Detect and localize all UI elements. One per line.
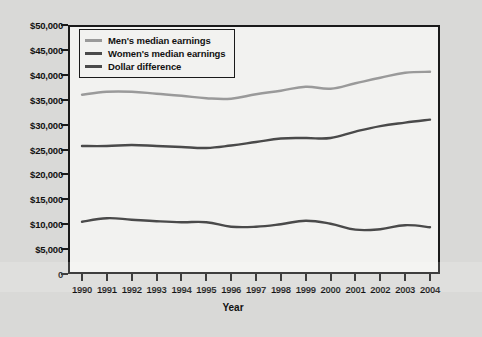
legend-item-label: Dollar difference <box>108 61 181 72</box>
x-axis-tick-mark <box>354 274 356 281</box>
y-axis-tick-mark <box>61 273 68 275</box>
x-axis-tick-label: 2004 <box>420 284 440 295</box>
x-axis-title-text: Year <box>222 302 243 313</box>
x-axis-tick-mark <box>255 274 257 281</box>
y-axis-tick-mark <box>61 173 68 175</box>
legend-item: Dollar difference <box>85 60 226 73</box>
y-axis-tick-mark <box>61 248 68 250</box>
x-axis-tick-label: 1996 <box>221 284 241 295</box>
legend-swatch-icon <box>85 65 102 68</box>
legend-swatch-icon <box>85 39 102 42</box>
y-axis-tick-label: $30,000 <box>30 119 63 130</box>
x-axis-tick-label: 1998 <box>271 284 291 295</box>
x-axis-tick-mark <box>379 274 381 281</box>
x-axis-tick-label: 1991 <box>97 284 117 295</box>
y-axis-tick-label: $5,000 <box>35 244 63 255</box>
x-axis-tick-mark <box>180 274 182 281</box>
y-axis-tick-label: $50,000 <box>30 20 63 31</box>
y-axis-tick-label: $25,000 <box>30 144 63 155</box>
y-axis-tick-label: $45,000 <box>30 44 63 55</box>
x-axis-tick-label: 1994 <box>171 284 191 295</box>
y-axis-tick-mark <box>61 74 68 76</box>
y-axis-tick-label: $20,000 <box>30 169 63 180</box>
series-line <box>82 218 430 230</box>
x-axis-tick-label: 1993 <box>147 284 167 295</box>
x-axis-tick-mark <box>205 274 207 281</box>
x-axis-tick-mark <box>156 274 158 281</box>
y-axis-tick-label: $10,000 <box>30 219 63 230</box>
x-axis-tick-label: 1992 <box>122 284 142 295</box>
x-axis-tick-label: 2000 <box>321 284 341 295</box>
x-axis-tick-mark <box>131 274 133 281</box>
x-axis-tick-label: 2001 <box>345 284 365 295</box>
x-axis-title: Year <box>0 302 482 313</box>
chart-legend: Men's median earningsWomen's median earn… <box>79 29 235 78</box>
x-axis-tick-label: 1999 <box>296 284 316 295</box>
x-axis-tick-label: 2002 <box>370 284 390 295</box>
y-axis-tick-mark <box>61 223 68 225</box>
legend-item: Men's median earnings <box>85 34 226 47</box>
x-axis-tick-mark <box>230 274 232 281</box>
x-axis-tick-mark <box>81 274 83 281</box>
y-axis-tick-label: $40,000 <box>30 69 63 80</box>
y-axis-tick-label: $35,000 <box>30 94 63 105</box>
chart-page: $50,000$45,000$40,000$35,000$30,000$25,0… <box>0 0 482 337</box>
y-axis-tick-mark <box>61 124 68 126</box>
y-axis: $50,000$45,000$40,000$35,000$30,000$25,0… <box>0 0 63 337</box>
earnings-line-chart: $50,000$45,000$40,000$35,000$30,000$25,0… <box>0 0 482 337</box>
x-axis-tick-mark <box>330 274 332 281</box>
x-axis-tick-mark <box>106 274 108 281</box>
x-axis-tick-label: 1997 <box>246 284 266 295</box>
y-axis-tick-mark <box>61 24 68 26</box>
y-axis-tick-mark <box>61 198 68 200</box>
x-axis-tick-mark <box>280 274 282 281</box>
legend-item: Women's median earnings <box>85 47 226 60</box>
legend-item-label: Women's median earnings <box>108 48 226 59</box>
x-axis-tick-label: 2003 <box>395 284 415 295</box>
legend-item-label: Men's median earnings <box>108 35 211 46</box>
x-axis-tick-mark <box>305 274 307 281</box>
y-axis-tick-label: $15,000 <box>30 194 63 205</box>
y-axis-tick-mark <box>61 49 68 51</box>
x-axis-tick-mark <box>429 274 431 281</box>
y-axis-tick-mark <box>61 99 68 101</box>
x-axis-tick-mark <box>404 274 406 281</box>
x-axis-tick-label: 1995 <box>196 284 216 295</box>
series-line <box>82 120 430 148</box>
legend-swatch-icon <box>85 52 102 55</box>
x-axis-tick-label: 1990 <box>72 284 92 295</box>
y-axis-tick-mark <box>61 149 68 151</box>
